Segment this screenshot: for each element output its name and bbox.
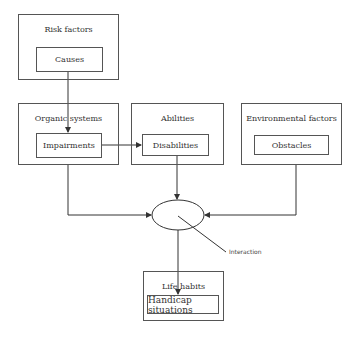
environmental-factors-box: Environmental factors — [241, 103, 342, 165]
disabilities-box: Disabilities — [142, 134, 209, 156]
organic-systems-title: Organic systems — [19, 114, 118, 123]
abilities-title: Abilities — [132, 114, 223, 123]
edge-obstacles-interaction — [205, 164, 296, 215]
interaction-node — [152, 200, 204, 230]
impairments-box: Impairments — [36, 133, 102, 158]
risk-factors-title: Risk factors — [19, 25, 118, 34]
obstacles-box: Obstacles — [254, 135, 329, 155]
edge-impairments-interaction — [68, 164, 151, 215]
handicap-situations-box: Handicap situations — [147, 295, 219, 314]
environmental-factors-title: Environmental factors — [242, 114, 341, 123]
life-habits-title: Life habits — [144, 282, 223, 291]
causes-box: Causes — [36, 47, 103, 72]
interaction-label: Interaction — [229, 248, 262, 255]
